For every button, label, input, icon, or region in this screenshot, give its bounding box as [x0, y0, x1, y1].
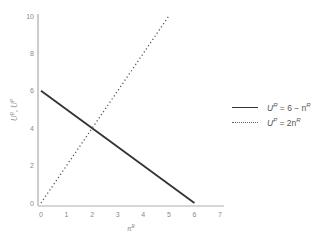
legend-item-ur: UR = 6 − nR [232, 101, 311, 113]
series-line-ur [41, 91, 194, 203]
x-tick-label: 6 [192, 211, 196, 218]
legend-item-up: UP = 2nR [232, 116, 311, 128]
legend: UR = 6 − nR UP = 2nR [232, 101, 311, 131]
x-tick-label: 5 [167, 211, 171, 218]
y-axis-label: UR, UP [9, 98, 19, 121]
y-tick-label: 6 [30, 87, 34, 94]
x-tick-label: 4 [141, 211, 145, 218]
y-tick-label: 2 [30, 162, 34, 169]
y-tick-label: 4 [30, 125, 34, 132]
x-axis-label: nR [127, 223, 135, 233]
tick-labels: 012345670246810 [26, 13, 222, 219]
x-tick-label: 0 [39, 211, 43, 218]
x-tick-label: 2 [90, 211, 94, 218]
legend-label-ur: UR = 6 − nR [267, 102, 311, 113]
y-tick-label: 10 [26, 13, 34, 20]
x-tick-label: 3 [116, 211, 120, 218]
x-tick-label: 1 [65, 211, 69, 218]
legend-swatch-solid [232, 107, 258, 108]
series-lines [41, 16, 194, 203]
y-tick-label: 0 [30, 200, 34, 207]
series-line-up [41, 16, 169, 203]
legend-label-up: UP = 2nR [267, 117, 301, 128]
legend-swatch-dotted [232, 122, 258, 123]
x-tick-label: 7 [218, 211, 222, 218]
y-tick-label: 8 [30, 50, 34, 57]
